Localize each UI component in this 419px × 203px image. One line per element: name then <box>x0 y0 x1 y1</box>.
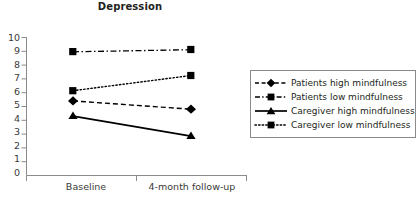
legend-item-caregiver-low-mindfulness: Caregiver low mindfulness <box>254 118 411 132</box>
legend-label-patients-high-mindfulness: Patients high mindfulness <box>291 77 407 89</box>
legend-swatch-dotted-square-icon <box>254 119 288 131</box>
legend-label-caregiver-low-mindfulness: Caregiver low mindfulness <box>291 119 410 131</box>
series-caregiver-low-mindfulness <box>69 72 194 94</box>
legend-swatch-dashdot-square-icon <box>254 91 288 103</box>
legend-item-patients-low-mindfulness: Patients low mindfulness <box>254 90 411 104</box>
series-patients-high-mindfulness <box>68 96 196 114</box>
series-patients-low-mindfulness <box>69 46 194 55</box>
chart-legend: Patients high mindfulness Patients low m… <box>250 70 416 138</box>
depression-line-chart: Depression 10 9 8 7 6 5 4 3 2 1 0 Baseli… <box>0 0 419 203</box>
legend-label-patients-low-mindfulness: Patients low mindfulness <box>291 91 403 103</box>
legend-swatch-dashed-diamond-icon <box>254 77 288 89</box>
series-caregiver-high-mindfulness <box>68 112 195 140</box>
axis-lines <box>22 37 248 181</box>
legend-item-caregiver-high-mindfulness: Caregiver high mindfulness <box>254 104 411 118</box>
legend-item-patients-high-mindfulness: Patients high mindfulness <box>254 76 411 90</box>
legend-swatch-solid-triangle-icon <box>254 105 288 117</box>
legend-label-caregiver-high-mindfulness: Caregiver high mindfulness <box>291 105 415 117</box>
